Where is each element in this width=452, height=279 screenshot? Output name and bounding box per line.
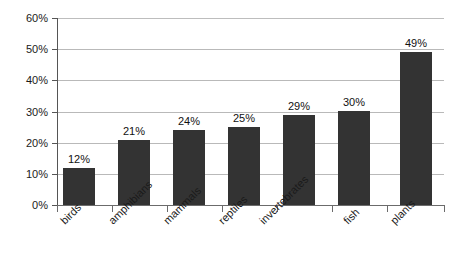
x-tick-7 [444, 206, 445, 212]
bar-fish[interactable] [338, 111, 370, 205]
y-axis-label-20: 20% [26, 137, 48, 149]
bar-reptiles[interactable] [228, 127, 260, 205]
bar-value-mammals: 24% [178, 115, 200, 127]
y-axis-label-30: 30% [26, 106, 48, 118]
x-tick-5 [332, 206, 333, 212]
bar-value-fish: 30% [343, 96, 365, 108]
bar-value-plants: 49% [405, 37, 427, 49]
y-axis-label-50: 50% [26, 43, 48, 55]
bar-birds[interactable] [63, 168, 95, 205]
x-tick-6 [387, 206, 388, 212]
y-axis-labels: 60% 50% 40% 30% 20% 10% 0% [0, 0, 48, 279]
x-axis-label-fish: fish [341, 206, 362, 227]
bar-value-amphibians: 21% [123, 125, 145, 137]
bar-plants[interactable] [400, 52, 432, 205]
y-axis-label-0: 0% [32, 199, 48, 211]
y-axis-label-40: 40% [26, 74, 48, 86]
bar-value-reptiles: 25% [233, 112, 255, 124]
y-axis-line [57, 18, 58, 206]
bar-chart: 60% 50% 40% 30% 20% 10% 0% 12% 21% 24% 2… [0, 0, 452, 279]
gridline-50 [57, 49, 444, 50]
bar-value-birds: 12% [68, 153, 90, 165]
x-tick-0 [57, 206, 58, 212]
gridline-60 [57, 18, 444, 19]
bar-value-invertebrates: 29% [288, 100, 310, 112]
y-axis-label-10: 10% [26, 168, 48, 180]
gridline-40 [57, 80, 444, 81]
y-axis-label-60: 60% [26, 12, 48, 24]
